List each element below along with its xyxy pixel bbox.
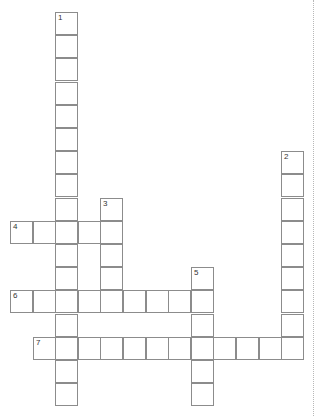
crossword-cell[interactable]: 4 (10, 221, 33, 244)
crossword-cell[interactable] (55, 244, 78, 267)
crossword-cell[interactable] (100, 290, 123, 313)
crossword-cell[interactable] (281, 267, 304, 290)
clue-number: 1 (58, 14, 62, 22)
crossword-cell[interactable] (168, 290, 191, 313)
crossword-cell[interactable] (146, 290, 169, 313)
crossword-cell[interactable]: 1 (55, 12, 78, 35)
clue-number: 3 (103, 200, 107, 208)
crossword-cell[interactable] (55, 267, 78, 290)
crossword-cell[interactable] (191, 383, 214, 406)
crossword-cell[interactable]: 5 (191, 267, 214, 290)
crossword-cell[interactable] (33, 221, 56, 244)
crossword-grid: 1234567 (0, 0, 318, 416)
crossword-cell[interactable] (281, 198, 304, 221)
crossword-cell[interactable] (100, 244, 123, 267)
crossword-cell[interactable] (281, 174, 304, 197)
crossword-cell[interactable] (55, 58, 78, 81)
crossword-cell[interactable] (55, 383, 78, 406)
crossword-cell[interactable] (123, 337, 146, 360)
crossword-cell[interactable] (78, 290, 101, 313)
crossword-cell[interactable] (78, 221, 101, 244)
crossword-cell[interactable] (55, 82, 78, 105)
crossword-cell[interactable] (55, 337, 78, 360)
crossword-cell[interactable] (55, 198, 78, 221)
crossword-cell[interactable] (259, 337, 282, 360)
crossword-cell[interactable] (281, 221, 304, 244)
crossword-cell[interactable] (78, 337, 101, 360)
crossword-cell[interactable] (146, 337, 169, 360)
crossword-cell[interactable] (123, 290, 146, 313)
crossword-cell[interactable] (168, 337, 191, 360)
crossword-cell[interactable] (191, 360, 214, 383)
crossword-cell[interactable] (100, 221, 123, 244)
crossword-cell[interactable] (55, 174, 78, 197)
clue-number: 6 (13, 292, 17, 300)
crossword-cell[interactable] (100, 337, 123, 360)
crossword-cell[interactable]: 3 (100, 198, 123, 221)
crossword-cell[interactable] (55, 314, 78, 337)
crossword-cell[interactable] (55, 128, 78, 151)
crossword-cell[interactable] (281, 337, 304, 360)
crossword-cell[interactable] (100, 267, 123, 290)
crossword-cell[interactable] (281, 244, 304, 267)
clue-number: 4 (13, 223, 17, 231)
clue-number: 5 (194, 269, 198, 277)
crossword-cell[interactable] (55, 151, 78, 174)
crossword-cell[interactable] (55, 35, 78, 58)
crossword-cell[interactable] (213, 337, 236, 360)
crossword-cell[interactable] (281, 314, 304, 337)
crossword-cell[interactable] (191, 290, 214, 313)
clue-number: 7 (36, 339, 40, 347)
crossword-cell[interactable] (191, 314, 214, 337)
crossword-cell[interactable]: 7 (33, 337, 56, 360)
crossword-cell[interactable] (33, 290, 56, 313)
crossword-cell[interactable] (55, 221, 78, 244)
crossword-cell[interactable] (281, 290, 304, 313)
crossword-cell[interactable] (191, 337, 214, 360)
crossword-cell[interactable]: 2 (281, 151, 304, 174)
clue-number: 2 (284, 153, 288, 161)
crossword-cell[interactable] (55, 105, 78, 128)
crossword-cell[interactable] (236, 337, 259, 360)
crossword-cell[interactable] (55, 290, 78, 313)
crossword-cell[interactable] (55, 360, 78, 383)
crossword-cell[interactable]: 6 (10, 290, 33, 313)
page-divider (313, 0, 314, 416)
